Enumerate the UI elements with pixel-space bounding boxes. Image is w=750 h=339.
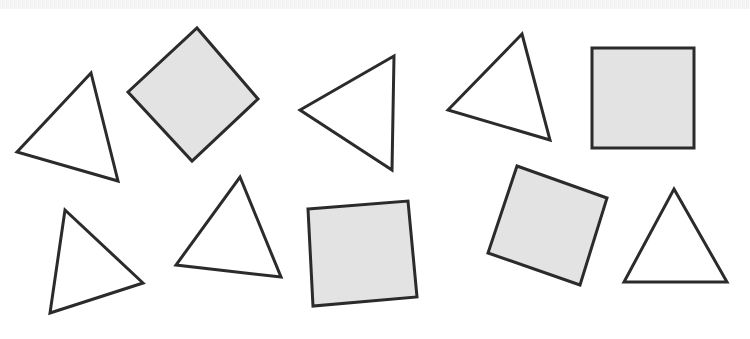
square-4: Square 4 (tilted right) — [488, 166, 607, 285]
square-3: Square 3 (tilted left) — [308, 201, 417, 306]
shape-group: Triangle 1Square 1 (diamond)Triangle 2Tr… — [17, 28, 727, 313]
figure-canvas: Triangle 1Square 1 (diamond)Triangle 2Tr… — [0, 0, 750, 339]
triangle-5: Triangle 5 — [176, 177, 281, 277]
triangle-6: Triangle 6 — [624, 189, 727, 282]
square-2: Square 2 (upright) — [592, 48, 694, 148]
triangle-2: Triangle 2 — [300, 56, 394, 170]
triangle-1: Triangle 1 — [17, 73, 118, 181]
square-1: Square 1 (diamond) — [128, 28, 258, 161]
triangle-4: Triangle 4 — [50, 210, 143, 313]
shapes-svg: Triangle 1Square 1 (diamond)Triangle 2Tr… — [0, 0, 750, 339]
triangle-3: Triangle 3 — [448, 34, 550, 140]
